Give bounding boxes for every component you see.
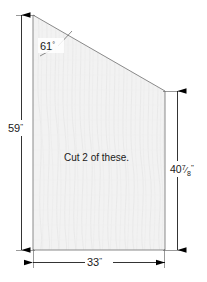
right-dimension: 407⁄8" — [163, 91, 206, 251]
diagram-canvas: 59" 407⁄8" 33" 61° Cut 2 of these. — [0, 0, 207, 282]
cut-diagram: 59" 407⁄8" 33" 61° Cut 2 of these. — [0, 0, 207, 282]
cut-note: Cut 2 of these. — [64, 152, 129, 163]
left-dimension: 59" — [6, 15, 35, 251]
bottom-dimension: 33" — [33, 249, 165, 270]
